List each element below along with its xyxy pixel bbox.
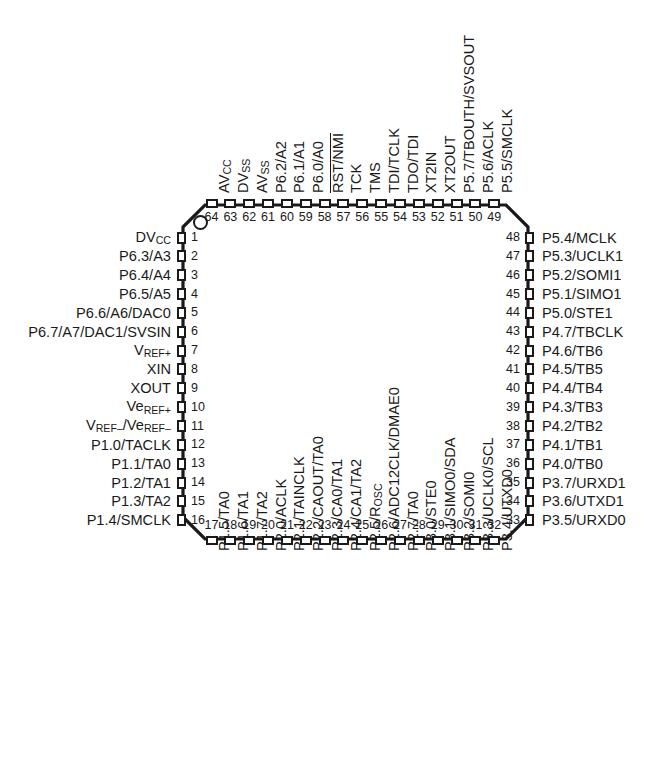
pin-lead-15 — [177, 495, 186, 507]
pin-label-43: P4.7/TBCLK — [542, 324, 623, 339]
pin-lead-47 — [525, 250, 534, 262]
pin-lead-9 — [177, 382, 186, 394]
pin-number-13: 13 — [191, 457, 205, 470]
pin-label-22: P2.2/CAOUT/TA0 — [311, 436, 326, 551]
pin-label-4: P6.5/A5 — [0, 287, 171, 302]
pin-label-38: P4.2/TB2 — [542, 419, 603, 434]
pin-label-39: P4.3/TB3 — [542, 400, 603, 415]
pin-number-3: 3 — [191, 269, 198, 282]
pin-lead-59 — [300, 199, 312, 208]
pin-number-40: 40 — [498, 382, 520, 395]
pin-number-38: 38 — [498, 420, 520, 433]
pin-number-51: 51 — [446, 211, 468, 224]
pin-lead-48 — [525, 232, 534, 244]
pin-label-11: VREF–/VeREF– — [0, 418, 171, 434]
pin-label-1: DVCC — [0, 230, 171, 246]
pin-label-55: TDI/TCLK — [387, 128, 402, 193]
pin-number-57: 57 — [332, 211, 354, 224]
pin-number-61: 61 — [257, 211, 279, 224]
pin-label-56: TMS — [368, 162, 383, 193]
pin-lead-7 — [177, 345, 186, 357]
pin-label-40: P4.4/TB4 — [542, 381, 603, 396]
pin-label-32: P3.4/UTXD0 — [500, 469, 515, 551]
pin-number-58: 58 — [314, 211, 336, 224]
pin-number-56: 56 — [351, 211, 373, 224]
pin-number-53: 53 — [408, 211, 430, 224]
pin-label-53: XT2IN — [424, 152, 439, 193]
pin-number-48: 48 — [498, 231, 520, 244]
pin-label-45: P5.1/SIMO1 — [542, 287, 622, 302]
pin-lead-2 — [177, 250, 186, 262]
pin-number-45: 45 — [498, 288, 520, 301]
pin-label-59: P6.0/A0 — [311, 141, 326, 193]
pin-label-49: P5.5/SMCLK — [500, 109, 515, 193]
pin-label-34: P3.6/UTXD1 — [542, 494, 624, 509]
pin-lead-13 — [177, 458, 186, 470]
pin-lead-16 — [177, 514, 186, 526]
pin-label-51: P5.7/TBOUTH/SVSOUT — [462, 35, 477, 193]
pin-label-12: P1.0/TACLK — [0, 437, 171, 452]
pin-label-58: RST/NMI — [330, 133, 346, 193]
pin-label-33: P3.5/URXD0 — [542, 513, 626, 528]
pin-label-36: P4.0/TB0 — [542, 456, 603, 471]
pin-label-47: P5.3/UCLK1 — [542, 249, 623, 264]
pin-number-8: 8 — [191, 363, 198, 376]
pin-lead-5 — [177, 307, 186, 319]
pin-number-9: 9 — [191, 382, 198, 395]
pin-lead-63 — [224, 199, 236, 208]
pin-number-11: 11 — [191, 420, 204, 433]
pin-lead-50 — [469, 199, 481, 208]
pin-label-54: TDO/TDI — [406, 135, 421, 193]
pin-lead-42 — [525, 345, 534, 357]
pin-lead-45 — [525, 288, 534, 300]
pin-label-62: AVSS — [255, 160, 271, 193]
pin-lead-53 — [413, 199, 425, 208]
pin-lead-6 — [177, 326, 186, 338]
pin-number-1: 1 — [191, 231, 198, 244]
pin-lead-49 — [488, 199, 500, 208]
pin-label-14: P1.2/TA1 — [0, 475, 171, 490]
pin-number-15: 15 — [191, 495, 205, 508]
pin-label-16: P1.4/SMCLK — [0, 513, 171, 528]
pin-lead-58 — [319, 199, 331, 208]
pin-number-12: 12 — [191, 438, 205, 451]
pin-lead-3 — [177, 269, 186, 281]
pin-number-5: 5 — [191, 306, 198, 319]
pin-lead-51 — [451, 199, 463, 208]
pin-number-4: 4 — [191, 288, 198, 301]
pin-number-49: 49 — [483, 211, 505, 224]
pin-lead-14 — [177, 477, 186, 489]
pin-number-50: 50 — [464, 211, 486, 224]
pin-number-52: 52 — [427, 211, 449, 224]
pin-lead-12 — [177, 439, 186, 451]
pin-number-7: 7 — [191, 344, 198, 357]
pin-label-52: XT2OUT — [443, 135, 458, 193]
pin-lead-46 — [525, 269, 534, 281]
pin-number-54: 54 — [389, 211, 411, 224]
pin-lead-39 — [525, 401, 534, 413]
pin-lead-41 — [525, 363, 534, 375]
pin-label-41: P4.5/TB5 — [542, 362, 603, 377]
pin-label-61: P6.2/A2 — [274, 141, 289, 193]
pin-number-41: 41 — [498, 363, 520, 376]
pin-lead-43 — [525, 326, 534, 338]
pin-label-37: P4.1/TB1 — [542, 437, 603, 452]
pin-label-15: P1.3/TA2 — [0, 494, 171, 509]
pin-lead-10 — [177, 401, 186, 413]
pin-label-8: XIN — [0, 362, 171, 377]
pin-lead-1 — [177, 232, 186, 244]
pin-lead-37 — [525, 439, 534, 451]
pin-lead-61 — [262, 199, 274, 208]
pin-number-37: 37 — [498, 438, 520, 451]
pin-label-29: P3.1/SIMO0/SDA — [443, 437, 458, 551]
pin-number-62: 62 — [238, 211, 260, 224]
pin-label-35: P3.7/URXD1 — [542, 475, 626, 490]
pin-lead-11 — [177, 420, 186, 432]
pin-label-10: VeREF+ — [0, 399, 171, 415]
pin-lead-34 — [525, 495, 534, 507]
pin-label-57: TCK — [349, 164, 364, 193]
pin-number-6: 6 — [191, 325, 198, 338]
pin-number-42: 42 — [498, 344, 520, 357]
pin-lead-55 — [375, 199, 387, 208]
pin-label-5: P6.6/A6/DAC0 — [0, 305, 171, 320]
